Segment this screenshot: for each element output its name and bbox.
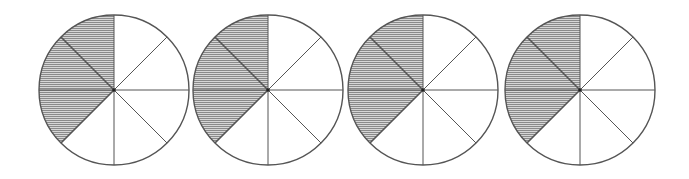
sector-divider	[268, 37, 321, 90]
fraction-circles-svg	[0, 0, 689, 179]
sector-divider	[423, 90, 476, 143]
circles-group	[39, 15, 655, 165]
sector-divider	[580, 37, 633, 90]
fraction-circle	[348, 15, 498, 165]
center-dot	[266, 88, 270, 92]
sector-divider	[423, 37, 476, 90]
shaded-sector	[505, 90, 580, 143]
fraction-circle	[39, 15, 189, 165]
sector-divider	[114, 37, 167, 90]
sector-divider	[114, 90, 167, 143]
shaded-sector	[193, 90, 268, 143]
center-dot	[421, 88, 425, 92]
fraction-circles-figure: Four identical circles, each divided int…	[0, 0, 689, 179]
center-dot	[578, 88, 582, 92]
sector-divider	[580, 90, 633, 143]
shaded-sector	[348, 90, 423, 143]
center-dot	[112, 88, 116, 92]
fraction-circle	[505, 15, 655, 165]
sector-divider	[268, 90, 321, 143]
shaded-sector	[39, 90, 114, 143]
fraction-circle	[193, 15, 343, 165]
